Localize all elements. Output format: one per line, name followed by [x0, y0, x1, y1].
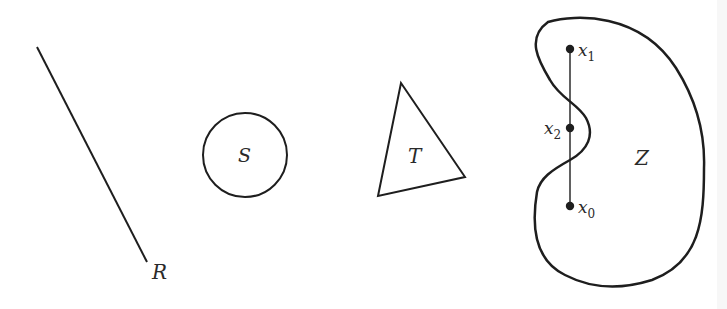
circle-s: S — [203, 113, 287, 197]
segment-line — [37, 47, 147, 262]
label-t: T — [408, 144, 423, 168]
point-x1 — [566, 45, 574, 53]
point-x0 — [566, 202, 574, 210]
label-r: R — [151, 260, 167, 284]
label-z: Z — [634, 146, 650, 170]
triangle-shape — [378, 83, 465, 196]
label-x0: x0 — [578, 197, 595, 221]
region-z: x1 x2 x0 Z — [535, 18, 704, 287]
triangle-t: T — [378, 83, 465, 196]
label-x1: x1 — [578, 40, 595, 64]
sets-diagram: R S T x1 x2 x0 Z — [0, 0, 727, 309]
point-x2 — [566, 124, 574, 132]
label-x2: x2 — [544, 118, 561, 142]
region-outline — [535, 18, 704, 287]
line-segment-r: R — [37, 47, 167, 284]
label-s: S — [238, 144, 251, 166]
